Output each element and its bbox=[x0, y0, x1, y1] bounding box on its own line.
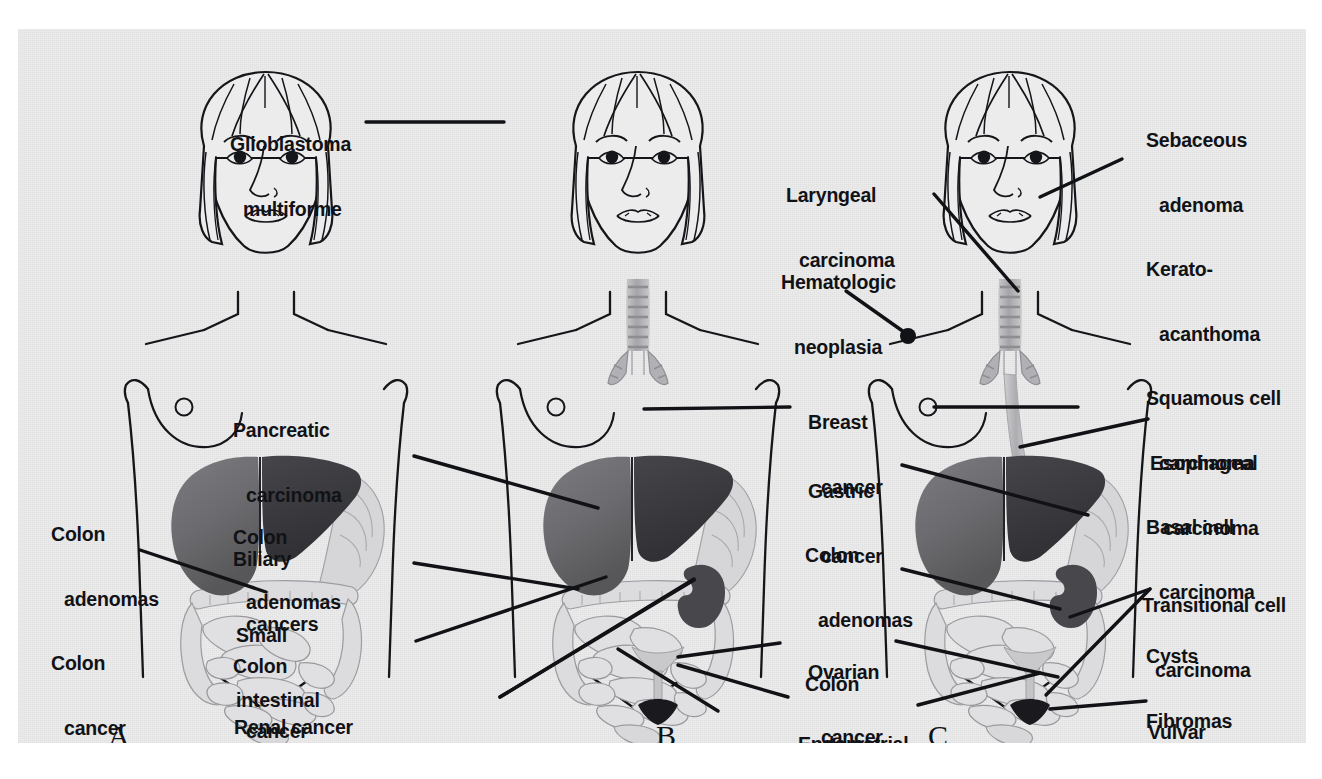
label-renal-ureteral: Renal cancer Ureteral carcinomas bbox=[234, 674, 353, 743]
label-line: carcinoma bbox=[1150, 518, 1259, 540]
figure-plate: Colon adenomas Colon cancer Glioblastoma… bbox=[18, 29, 1306, 743]
label-line: Squamous cell bbox=[1146, 388, 1281, 410]
label-line: Colon bbox=[805, 545, 913, 567]
label-vulvar-carcinoma: Vulvar carcinoma bbox=[1148, 679, 1257, 743]
panel-letter-b: B bbox=[656, 719, 676, 743]
label-line: Vulvar bbox=[1148, 722, 1257, 743]
panel-letter-a: A bbox=[108, 719, 130, 743]
label-line: Gastric bbox=[808, 481, 883, 503]
label-line: Colon bbox=[51, 524, 159, 546]
panel-letter-c: C bbox=[928, 719, 948, 743]
label-line: Laryngeal bbox=[786, 185, 895, 207]
label-line: acanthoma bbox=[1146, 324, 1281, 346]
label-line: Endometrial bbox=[798, 734, 909, 743]
label-line: Small bbox=[236, 625, 320, 647]
anatomy-artwork bbox=[18, 29, 1306, 743]
label-line: Renal cancer bbox=[234, 717, 353, 739]
label-line: Sebaceous bbox=[1146, 130, 1281, 152]
label-line: Hematologic bbox=[781, 272, 896, 294]
label-line: adenomas bbox=[51, 589, 159, 611]
label-glioblastoma-multiforme: Glioblastoma multiforme bbox=[230, 91, 351, 263]
label-line: carcinoma bbox=[1142, 660, 1286, 682]
label-line: Esophageal bbox=[1150, 453, 1259, 475]
label-line: Colon bbox=[51, 653, 159, 675]
label-line: multiforme bbox=[230, 199, 351, 221]
label-line: adenoma bbox=[1146, 195, 1281, 217]
label-line: Kerato- bbox=[1146, 259, 1281, 281]
label-colon-adenomas-colon-cancer-a: Colon adenomas Colon cancer bbox=[51, 481, 159, 743]
label-line: Colon bbox=[233, 527, 341, 549]
label-line: neoplasia bbox=[781, 337, 896, 359]
label-line: Breast bbox=[808, 412, 883, 434]
figure-root: Colon adenomas Colon cancer Glioblastoma… bbox=[0, 0, 1322, 779]
label-line: Glioblastoma bbox=[230, 134, 351, 156]
label-endometrial-carcinoma: Endometrial carcinoma bbox=[798, 691, 909, 743]
label-line: Ovarian bbox=[808, 662, 883, 684]
label-line: Pancreatic bbox=[233, 420, 342, 442]
label-line: Transitional cell bbox=[1142, 595, 1286, 617]
label-line: cancer bbox=[51, 718, 159, 740]
